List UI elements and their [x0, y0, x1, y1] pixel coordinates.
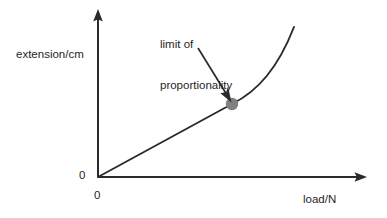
x-axis-origin-label: 0 [94, 189, 100, 203]
y-axis-label: extension/cm [16, 48, 84, 62]
annotation-label-line2: proportionality [160, 79, 232, 93]
x-axis-label: load/N [303, 193, 336, 207]
annotation-label-line1: limit of [160, 38, 232, 52]
y-axis-origin-label: 0 [79, 169, 85, 183]
annotation-label: limit of proportionality [160, 11, 232, 106]
